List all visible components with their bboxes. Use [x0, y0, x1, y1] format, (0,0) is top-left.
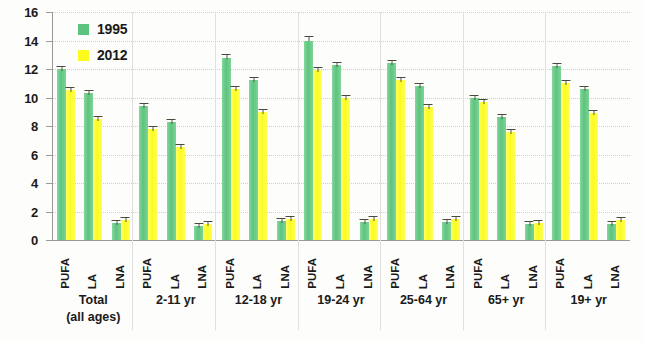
bar-fill — [222, 58, 231, 240]
group-label: 19-24 yr — [300, 292, 383, 309]
category-label-pufa: PUFA — [390, 258, 402, 289]
group-label: 2-11 yr — [135, 292, 218, 309]
category-label-pufa: PUFA — [555, 258, 567, 289]
bar-fill — [286, 219, 295, 240]
group-label: 65+ yr — [465, 292, 548, 309]
group-label: 25-64 yr — [382, 292, 465, 309]
y-axis-tick-label: 8 — [8, 119, 38, 134]
bar-fill — [139, 106, 148, 240]
error-bar — [167, 119, 176, 123]
error-bar — [57, 66, 66, 70]
group-label-line1: 12-18 yr — [217, 292, 300, 309]
bar-fill — [148, 129, 157, 240]
bar-2012-PUFA — [479, 102, 488, 240]
bar-2012-LNA — [286, 219, 295, 240]
bar-2012-PUFA — [66, 90, 75, 240]
bar-1995-LNA — [194, 226, 203, 240]
legend-item-2012: 2012 — [78, 44, 127, 66]
category-label-lna: LNA — [363, 265, 375, 289]
bar-1995-LA — [84, 93, 93, 240]
bar-1995-LNA — [442, 222, 451, 240]
category-label-pufa: PUFA — [473, 258, 485, 289]
error-bar — [369, 216, 378, 220]
bar-2012-LNA — [121, 220, 130, 240]
error-bar — [607, 221, 616, 225]
bar-chart: 0246810121416 PUFALALNAPUFALALNAPUFALALN… — [0, 0, 645, 342]
error-bar — [552, 63, 561, 67]
bar-fill — [93, 119, 102, 240]
y-axis-tick-label: 16 — [8, 5, 38, 20]
bar-2012-LA — [176, 147, 185, 240]
bar-2012-LA — [93, 119, 102, 240]
error-bar — [84, 90, 93, 94]
bar-1995-LA — [415, 86, 424, 240]
bar-fill — [313, 70, 322, 240]
bar-1995-LA — [332, 65, 341, 240]
error-bar — [442, 219, 451, 223]
group-label: 12-18 yr — [217, 292, 300, 309]
category-label-la: LA — [170, 274, 182, 289]
error-bar — [396, 77, 405, 81]
bar-fill — [616, 220, 625, 240]
legend-item-1995: 1995 — [78, 18, 127, 40]
error-bar — [231, 86, 240, 90]
bar-fill — [506, 132, 515, 240]
bar-fill — [249, 80, 258, 240]
category-label-lna: LNA — [610, 265, 622, 289]
group-label-line1: 19-24 yr — [300, 292, 383, 309]
bar-fill — [497, 117, 506, 240]
bar-2012-LNA — [534, 223, 543, 240]
bar-2012-LA — [506, 132, 515, 240]
error-bar — [93, 116, 102, 120]
legend-label-2012: 2012 — [97, 47, 127, 63]
bar-fill — [304, 41, 313, 241]
bar-1995-LNA — [277, 221, 286, 240]
error-bar — [66, 87, 75, 91]
error-bar — [203, 221, 212, 225]
bar-1995-PUFA — [470, 98, 479, 241]
error-bar — [249, 77, 258, 81]
bar-fill — [66, 90, 75, 240]
bar-fill — [258, 112, 267, 240]
bar-2012-LA — [424, 107, 433, 240]
bar-fill — [451, 219, 460, 240]
category-label-la: LA — [335, 274, 347, 289]
error-bar — [479, 99, 488, 103]
error-bar — [222, 54, 231, 59]
bar-fill — [470, 98, 479, 241]
bar-fill — [369, 219, 378, 240]
bar-2012-PUFA — [231, 89, 240, 240]
error-bar — [580, 86, 589, 90]
category-label-lna: LNA — [115, 265, 127, 289]
bar-2012-LNA — [369, 219, 378, 240]
y-axis-tick-label: 4 — [8, 176, 38, 191]
bar-2012-LNA — [616, 220, 625, 240]
category-label-lna: LNA — [197, 265, 209, 289]
legend-label-1995: 1995 — [97, 21, 127, 37]
error-bar — [451, 216, 460, 220]
legend-swatch-2012-icon — [78, 50, 89, 61]
error-bar — [341, 95, 350, 99]
bar-fill — [479, 102, 488, 240]
bar-fill — [176, 147, 185, 240]
bar-1995-LA — [580, 89, 589, 240]
bar-fill — [121, 220, 130, 240]
error-bar — [534, 220, 543, 224]
group-label-line1: 19+ yr — [547, 292, 630, 309]
bar-fill — [552, 66, 561, 240]
bar-2012-PUFA — [148, 129, 157, 240]
error-bar — [525, 221, 534, 225]
y-axis-tick-label: 6 — [8, 147, 38, 162]
bar-fill — [360, 222, 369, 240]
bar-1995-PUFA — [552, 66, 561, 240]
group-label-line1: 65+ yr — [465, 292, 548, 309]
bar-fill — [534, 223, 543, 240]
legend-swatch-1995-icon — [78, 24, 89, 35]
category-label-la: LA — [583, 274, 595, 289]
category-label-pufa: PUFA — [225, 258, 237, 289]
bar-fill — [167, 122, 176, 240]
y-axis-tick-label: 0 — [8, 233, 38, 248]
group-label-line1: 2-11 yr — [135, 292, 218, 309]
group-label: 19+ yr — [547, 292, 630, 309]
bar-fill — [424, 107, 433, 240]
